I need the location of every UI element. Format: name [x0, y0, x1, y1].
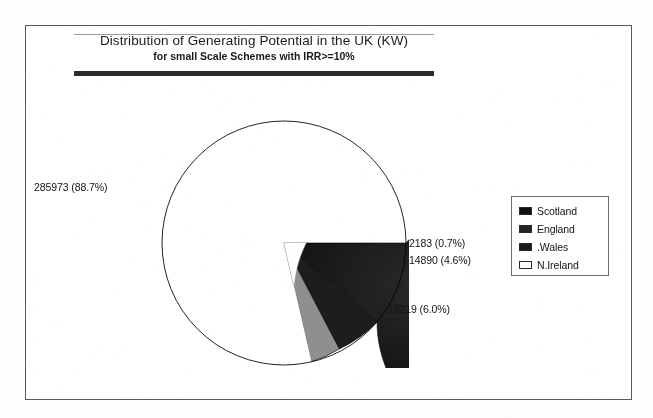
legend-swatch-wales — [519, 243, 532, 251]
chart-title: Distribution of Generating Potential in … — [74, 32, 434, 49]
data-label-england: 19219 (6.0%) — [388, 303, 450, 315]
pie-chart — [159, 118, 409, 368]
legend-item-england[interactable]: England — [519, 220, 608, 238]
title-block: Distribution of Generating Potential in … — [74, 32, 434, 63]
legend-swatch-england — [519, 225, 532, 233]
legend-item-wales[interactable]: .Wales — [519, 238, 608, 256]
scanned-page: Distribution of Generating Potential in … — [0, 0, 653, 418]
legend-label-england: England — [537, 223, 575, 235]
data-label-wales: 14890 (4.6%) — [409, 254, 471, 266]
legend-label-scotland: Scotland — [537, 205, 577, 217]
title-underline-bar — [74, 71, 434, 76]
legend-item-scotland[interactable]: Scotland — [519, 202, 608, 220]
data-label-scotland: 285973 (88.7%) — [34, 181, 107, 193]
pie-chart-svg — [159, 118, 409, 368]
legend-swatch-nireland — [519, 261, 532, 269]
chart-frame: Distribution of Generating Potential in … — [25, 25, 632, 400]
chart-subtitle: for small Scale Schemes with IRR>=10% — [74, 50, 434, 63]
legend-label-nireland: N.Ireland — [537, 259, 579, 271]
legend-swatch-scotland — [519, 207, 532, 215]
data-label-nireland: 2183 (0.7%) — [409, 237, 465, 249]
chart-legend: Scotland England .Wales N.Ireland — [511, 196, 609, 276]
legend-label-wales: .Wales — [537, 241, 568, 253]
legend-item-nireland[interactable]: N.Ireland — [519, 256, 608, 274]
